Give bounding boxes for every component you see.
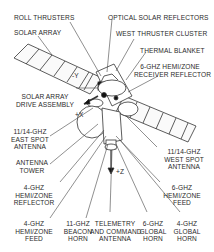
label-line: 6-GHz (136, 220, 170, 228)
label-line: REFLECTOR (12, 199, 56, 207)
label-line: ANTENNA (90, 235, 140, 243)
label-line: 11/14-GHz (10, 128, 50, 136)
label-line: EAST SPOT (10, 136, 50, 144)
label-line: TOWER (12, 167, 52, 175)
label-line: 6-GHZ (160, 184, 204, 192)
label-line: FEED (160, 199, 204, 207)
label-west-thruster-cluster: WEST THRUSTER CLUSTER (116, 30, 207, 38)
label-line: ANTENNA (160, 163, 208, 171)
label-4ghz-hemi-zone-reflector: 4-GHz HEMI/ZONE REFLECTOR (12, 184, 56, 207)
label-line: 4-GHz (12, 184, 56, 192)
label-line: WEST SPOT (160, 156, 208, 164)
label-4ghz-hemi-zone-feed: 4-GHz HEMI/ZONE FEED (12, 220, 56, 243)
label-line: HORN (136, 235, 170, 243)
label-east-spot-antenna: 11/14-GHz EAST SPOT ANTENNA (10, 128, 50, 151)
label-west-spot-antenna: 11/14-GHz WEST SPOT ANTENNA (160, 148, 208, 171)
label-roll-thrusters: ROLL THRUSTERS (14, 14, 74, 22)
label-line: HEMI/ZONE (12, 228, 56, 236)
label-line: HEMI/ZONE (12, 192, 56, 200)
label-line: 11/14-GHz (160, 148, 208, 156)
axis-label-plus-z: +Z (116, 168, 124, 176)
label-line: 4-GHZ (170, 220, 204, 228)
label-line: DRIVE ASSEMBLY (14, 101, 76, 109)
label-4ghz-global-horn: 4-GHZ GLOBAL HORN (170, 220, 204, 243)
label-line: GLOBAL (170, 228, 204, 236)
label-line: TELEMETRY (90, 220, 140, 228)
label-telemetry-command-antenna: TELEMETRY AND COMMAND ANTENNA (90, 220, 140, 243)
label-line: SOLAR ARRAY (14, 93, 76, 101)
label-6ghz-hemi-zone-feed: 6-GHZ HEMI/ZONE FEED (160, 184, 204, 207)
label-line: 4-GHz (12, 220, 56, 228)
left-solar-array (14, 44, 102, 94)
label-line: 6-GHz HEMI/ZONE (134, 63, 206, 71)
label-line: ANTENNA (12, 159, 52, 167)
label-6ghz-global-horn: 6-GHz GLOBAL HORN (136, 220, 170, 243)
label-line: ANTENNA (10, 143, 50, 151)
label-line: RECEIVER REFLECTOR (134, 71, 206, 79)
label-thermal-blanket: THERMAL BLANKET (140, 47, 205, 55)
label-line: GLOBAL (136, 228, 170, 236)
axis-label-minus-y: -Y (72, 72, 79, 80)
label-solar-array: SOLAR ARRAY (14, 29, 61, 37)
label-line: AND COMMAND (90, 228, 140, 236)
label-antenna-tower: ANTENNA TOWER (12, 159, 52, 174)
satellite-illustration (0, 0, 214, 252)
axis-label-plus-x: +X (75, 111, 83, 119)
label-receiver-reflector: 6-GHz HEMI/ZONE RECEIVER REFLECTOR (134, 63, 206, 78)
label-line: HEMI/ZONE (160, 192, 204, 200)
label-line: HORN (170, 235, 204, 243)
label-optical-solar-reflectors: OPTICAL SOLAR REFLECTORS (108, 14, 209, 22)
label-line: FEED (12, 235, 56, 243)
label-solar-array-drive-assembly: SOLAR ARRAY DRIVE ASSEMBLY (14, 93, 76, 108)
